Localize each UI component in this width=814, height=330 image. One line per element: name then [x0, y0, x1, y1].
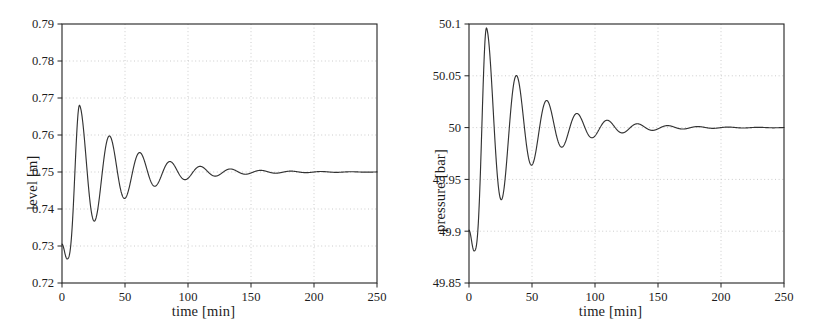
- x-tick-label: 250: [368, 290, 387, 304]
- y-tick-label: 0.73: [32, 239, 54, 253]
- x-axis-label-left: time [min]: [0, 303, 407, 320]
- x-tick-label: 200: [712, 290, 731, 304]
- y-axis-label-left: level [m]: [24, 155, 41, 210]
- x-tick-label: 0: [466, 290, 472, 304]
- x-tick-label: 150: [649, 290, 668, 304]
- pressure-chart-svg: 05010015020025049.8549.949.955050.0550.1: [407, 0, 814, 330]
- x-tick-label: 100: [179, 290, 198, 304]
- x-tick-label: 50: [119, 290, 132, 304]
- y-tick-label: 0.77: [32, 91, 54, 105]
- data-line: [469, 28, 784, 251]
- x-tick-label: 250: [775, 290, 794, 304]
- y-tick-label: 49.85: [433, 276, 461, 290]
- figure-two-panel-plots: 0501001502002500.720.730.740.750.760.770…: [0, 0, 814, 330]
- y-tick-label: 0.76: [32, 128, 54, 142]
- x-tick-label: 50: [526, 290, 539, 304]
- x-tick-label: 200: [305, 290, 324, 304]
- panel-pressure-plot: 05010015020025049.8549.949.955050.0550.1…: [407, 0, 814, 330]
- y-axis-label-right: pressure [bar]: [432, 149, 449, 232]
- y-tick-label: 0.78: [32, 54, 54, 68]
- y-tick-label: 50: [448, 121, 461, 135]
- data-line: [62, 105, 377, 259]
- y-tick-label: 0.72: [32, 276, 54, 290]
- y-tick-label: 50.05: [433, 69, 461, 83]
- x-axis-label-right: time [min]: [407, 303, 814, 320]
- x-tick-label: 100: [586, 290, 605, 304]
- y-tick-label: 0.79: [32, 17, 54, 31]
- x-tick-label: 0: [59, 290, 65, 304]
- y-tick-label: 50.1: [439, 17, 461, 31]
- level-chart-svg: 0501001502002500.720.730.740.750.760.770…: [0, 0, 407, 330]
- x-tick-label: 150: [242, 290, 261, 304]
- panel-level-plot: 0501001502002500.720.730.740.750.760.770…: [0, 0, 407, 330]
